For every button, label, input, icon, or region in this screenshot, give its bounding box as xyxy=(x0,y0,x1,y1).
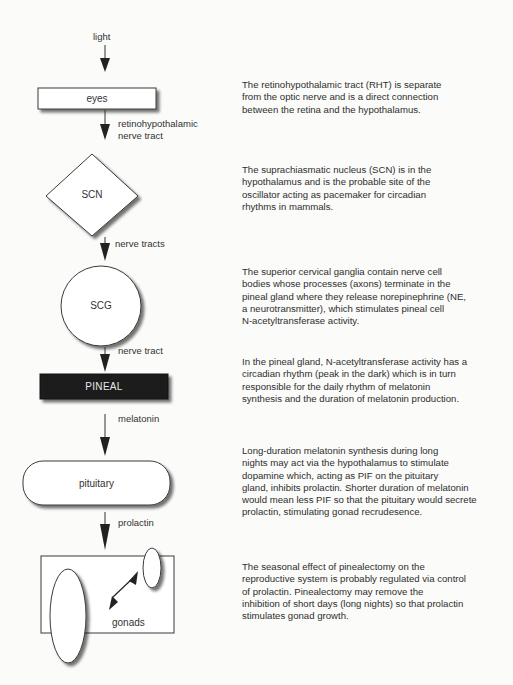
edge-label-nerve-tract: nerve tract xyxy=(118,345,163,357)
edge-label-nerve-tracts: nerve tracts xyxy=(115,238,165,250)
pineal-node-label: PINEAL xyxy=(85,381,122,392)
small-gonad-ellipse xyxy=(143,548,161,588)
edge-label-melatonin: melatonin xyxy=(118,413,159,425)
arrow-pituitary-to-gonads xyxy=(100,512,110,550)
arrow-light-to-eyes xyxy=(100,45,110,72)
eyes-node: eyes xyxy=(38,88,156,109)
description-rht: The retinohypothalamic tract (RHT) is se… xyxy=(242,79,504,116)
edge-label-prolactin: prolactin xyxy=(118,517,154,529)
arrow-pineal-to-pituitary xyxy=(100,414,110,456)
description-pineal: In the pineal gland, N-acetyltransferase… xyxy=(242,356,504,405)
pituitary-node: pituitary xyxy=(23,461,170,505)
eyes-node-label: eyes xyxy=(86,93,107,104)
description-pituitary: Long-duration melatonin synthesis during… xyxy=(242,445,504,519)
arrow-eyes-to-scn xyxy=(100,110,110,140)
scg-node: SCG xyxy=(61,300,141,311)
arrow-scn-to-scg xyxy=(100,237,110,261)
input-label-light: light xyxy=(93,31,110,43)
pineal-node: PINEAL xyxy=(40,374,168,399)
description-gonads: The seasonal effect of pinealectomy on t… xyxy=(242,561,504,622)
gonads-node-label: gonads xyxy=(112,617,145,629)
scn-node-label: SCN xyxy=(81,189,102,200)
large-gonad-ellipse xyxy=(50,569,86,663)
edge-label-rht: retinohypothalamic nerve tract xyxy=(118,118,198,142)
description-scn: The suprachiasmatic nucleus (SCN) is in … xyxy=(242,164,504,213)
pituitary-node-label: pituitary xyxy=(79,478,114,489)
description-scg: The superior cervical ganglia contain ne… xyxy=(242,266,504,327)
arrow-scg-to-pineal xyxy=(100,347,110,372)
scn-node: SCN xyxy=(46,189,138,200)
gonads-node-shape xyxy=(41,548,174,663)
scg-node-label: SCG xyxy=(90,300,112,311)
